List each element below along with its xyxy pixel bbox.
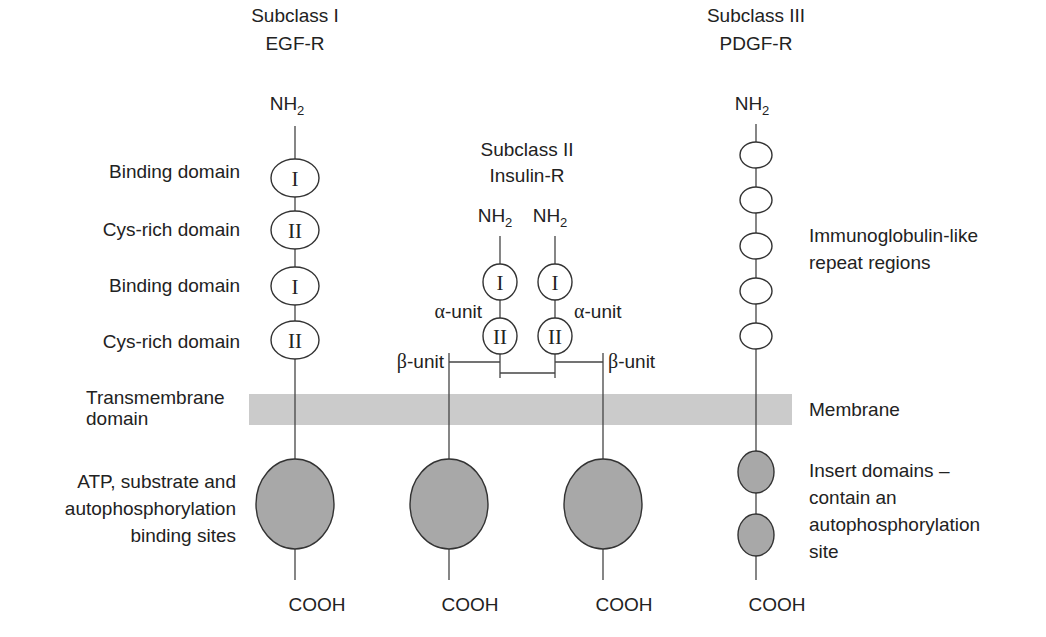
subclass-1-name: EGF-R bbox=[265, 33, 324, 54]
transmembrane-label-2: domain bbox=[86, 408, 148, 429]
beta-left-c-terminus: COOH bbox=[442, 594, 499, 615]
alpha-left-n-terminus: NH2 bbox=[478, 205, 513, 230]
subclass-3-name: PDGF-R bbox=[720, 33, 793, 54]
transmembrane-label: Transmembrane bbox=[86, 387, 225, 408]
insert-domain-label-line1: Insert domains – bbox=[809, 460, 950, 481]
beta-right-c-terminus: COOH bbox=[596, 594, 653, 615]
membrane-band bbox=[249, 394, 792, 425]
binding-domain-label: Binding domain bbox=[109, 161, 240, 182]
kinase-label-line1: ATP, substrate and bbox=[77, 471, 236, 492]
subclass-2-title: Subclass II bbox=[481, 139, 574, 160]
ig-repeat-oval bbox=[740, 233, 772, 259]
domain-symbol: I bbox=[497, 271, 504, 295]
subclass-1-title: Subclass I bbox=[251, 5, 339, 26]
ig-repeat-oval bbox=[740, 323, 772, 349]
domain-symbol: II bbox=[288, 219, 302, 243]
alpha-unit-label-right: α-unit bbox=[574, 300, 622, 322]
subclass-1-egf-receptor: Subclass I EGF-R NH2 I II I II Binding d… bbox=[65, 5, 346, 615]
domain-symbol: II bbox=[288, 329, 302, 353]
kinase-label-line3: binding sites bbox=[130, 525, 236, 546]
kinase-label-line2: autophosphorylation bbox=[65, 498, 236, 519]
beta-unit-label-right: β-unit bbox=[608, 350, 656, 373]
subclass-3-title: Subclass III bbox=[707, 5, 805, 26]
subclass-3-n-terminus: NH2 bbox=[735, 93, 770, 118]
insert-domain-label-line4: site bbox=[809, 541, 839, 562]
subclass-2-insulin-receptor: Subclass II Insulin-R NH2 NH2 I I II II … bbox=[397, 139, 656, 615]
insert-domain-oval bbox=[738, 514, 774, 556]
domain-symbol: II bbox=[548, 325, 562, 349]
insert-domain-label-line2: contain an bbox=[809, 487, 897, 508]
subclass-3-c-terminus: COOH bbox=[749, 594, 806, 615]
alpha-unit-label-left: α-unit bbox=[435, 300, 483, 322]
ig-repeat-oval bbox=[740, 142, 772, 168]
kinase-domain-oval bbox=[256, 459, 334, 549]
cys-rich-domain-label: Cys-rich domain bbox=[103, 219, 240, 240]
cys-rich-domain-label: Cys-rich domain bbox=[103, 331, 240, 352]
domain-symbol: I bbox=[292, 167, 299, 191]
alpha-right-n-terminus: NH2 bbox=[533, 205, 568, 230]
ig-repeat-label-line1: Immunoglobulin-like bbox=[809, 225, 978, 246]
domain-symbol: I bbox=[292, 275, 299, 299]
ig-repeat-label-line2: repeat regions bbox=[809, 252, 930, 273]
beta-left-kinase-oval bbox=[410, 459, 488, 549]
domain-symbol: I bbox=[552, 271, 559, 295]
subclass-2-name: Insulin-R bbox=[490, 165, 565, 186]
subclass-1-n-terminus: NH2 bbox=[270, 93, 305, 118]
beta-right-kinase-oval bbox=[564, 459, 642, 549]
membrane-label: Membrane bbox=[809, 399, 900, 420]
rtk-diagram: Subclass I EGF-R NH2 I II I II Binding d… bbox=[0, 0, 1046, 637]
insert-domain-oval bbox=[738, 451, 774, 493]
ig-repeat-oval bbox=[740, 187, 772, 213]
subclass-3-pdgf-receptor: Subclass III PDGF-R NH2 Immunoglobulin-l… bbox=[707, 5, 980, 615]
beta-unit-label-left: β-unit bbox=[397, 350, 445, 373]
domain-symbol: II bbox=[493, 325, 507, 349]
binding-domain-label: Binding domain bbox=[109, 275, 240, 296]
ig-repeat-oval bbox=[740, 278, 772, 304]
insert-domain-label-line3: autophosphorylation bbox=[809, 514, 980, 535]
subclass-1-c-terminus: COOH bbox=[289, 594, 346, 615]
